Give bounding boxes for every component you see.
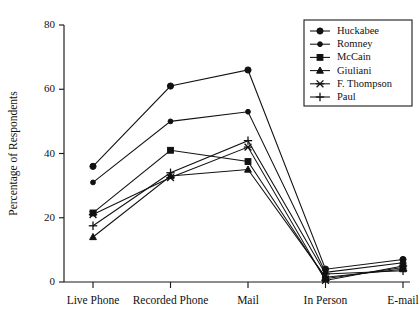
x-tick-label-in-person: In Person bbox=[304, 294, 348, 306]
y-tick-label: 40 bbox=[44, 147, 56, 159]
line-chart: HuckabeeRomneyMcCainGiulianiF. ThompsonP… bbox=[0, 0, 419, 326]
data-point-huckabee-1 bbox=[167, 83, 173, 89]
legend-label-f-thompson: F. Thompson bbox=[337, 78, 393, 89]
legend-label-paul: Paul bbox=[337, 91, 356, 102]
y-tick-label: 0 bbox=[50, 275, 56, 287]
x-tick-label-mail: Mail bbox=[237, 294, 259, 306]
y-tick-label: 60 bbox=[44, 82, 56, 94]
legend-label-huckabee: Huckabee bbox=[337, 25, 379, 36]
legend-marker-romney-icon bbox=[318, 42, 323, 47]
data-point-romney-1 bbox=[168, 119, 173, 124]
data-point-mccain-2 bbox=[245, 159, 251, 165]
y-axis-title: Percentage of Respondents bbox=[7, 91, 20, 216]
legend-marker-huckabee-icon bbox=[317, 28, 323, 34]
x-tick-label-recorded-phone: Recorded Phone bbox=[133, 294, 209, 306]
data-point-paul-0 bbox=[89, 222, 97, 230]
legend-marker-mccain-icon bbox=[317, 55, 323, 61]
series-paul bbox=[89, 136, 407, 278]
data-point-huckabee-2 bbox=[245, 67, 251, 73]
series-romney bbox=[91, 109, 406, 274]
y-tick-label: 80 bbox=[44, 18, 56, 30]
y-tick-label: 20 bbox=[44, 211, 56, 223]
data-point-huckabee-0 bbox=[90, 163, 96, 169]
chart-legend: HuckabeeRomneyMcCainGiulianiF. ThompsonP… bbox=[304, 20, 412, 106]
legend-label-mccain: McCain bbox=[337, 51, 372, 62]
chart-container: HuckabeeRomneyMcCainGiulianiF. ThompsonP… bbox=[0, 0, 419, 326]
data-point-giuliani-2 bbox=[245, 166, 252, 172]
data-point-romney-2 bbox=[246, 109, 251, 114]
x-tick-label-live-phone: Live Phone bbox=[67, 294, 120, 306]
data-point-romney-0 bbox=[91, 180, 96, 185]
data-point-mccain-1 bbox=[168, 147, 174, 153]
legend-label-giuliani: Giuliani bbox=[337, 65, 371, 76]
legend-label-romney: Romney bbox=[337, 38, 373, 49]
series-giuliani bbox=[90, 166, 407, 280]
series-line-giuliani bbox=[93, 170, 403, 278]
data-point-giuliani-0 bbox=[90, 233, 97, 239]
x-tick-label-e-mail: E-mail bbox=[387, 294, 418, 306]
